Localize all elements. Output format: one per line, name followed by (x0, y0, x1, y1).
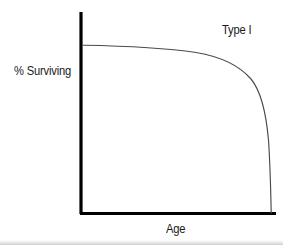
x-axis-label: Age (166, 221, 185, 236)
series-annotation-type-1: Type I (222, 22, 251, 37)
survivorship-curve-figure: % Surviving Age Type I (0, 0, 283, 245)
survivorship-curve-type-1 (83, 45, 271, 213)
y-axis-label: % Surviving (14, 63, 71, 78)
